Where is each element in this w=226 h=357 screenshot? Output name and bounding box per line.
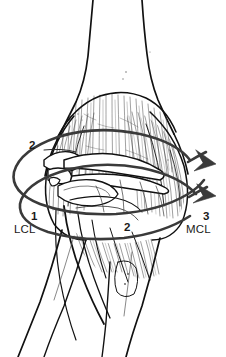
elbow-anatomy-illustration [0, 0, 226, 357]
ulna-shaft [102, 238, 160, 357]
label-capsule-number-lower: 2 [124, 222, 130, 234]
label-mcl-number: 3 [203, 211, 209, 223]
label-capsule-number-upper: 2 [29, 140, 35, 152]
label-lcl-abbr: LCL [14, 224, 36, 236]
elbow-ligament-figure: 2 1 LCL 2 3 MCL [0, 0, 226, 357]
radial-tuberosity [115, 261, 138, 297]
tendon-strokes [56, 206, 151, 340]
label-lcl-number: 1 [31, 211, 37, 223]
label-mcl-abbr: MCL [186, 224, 211, 236]
